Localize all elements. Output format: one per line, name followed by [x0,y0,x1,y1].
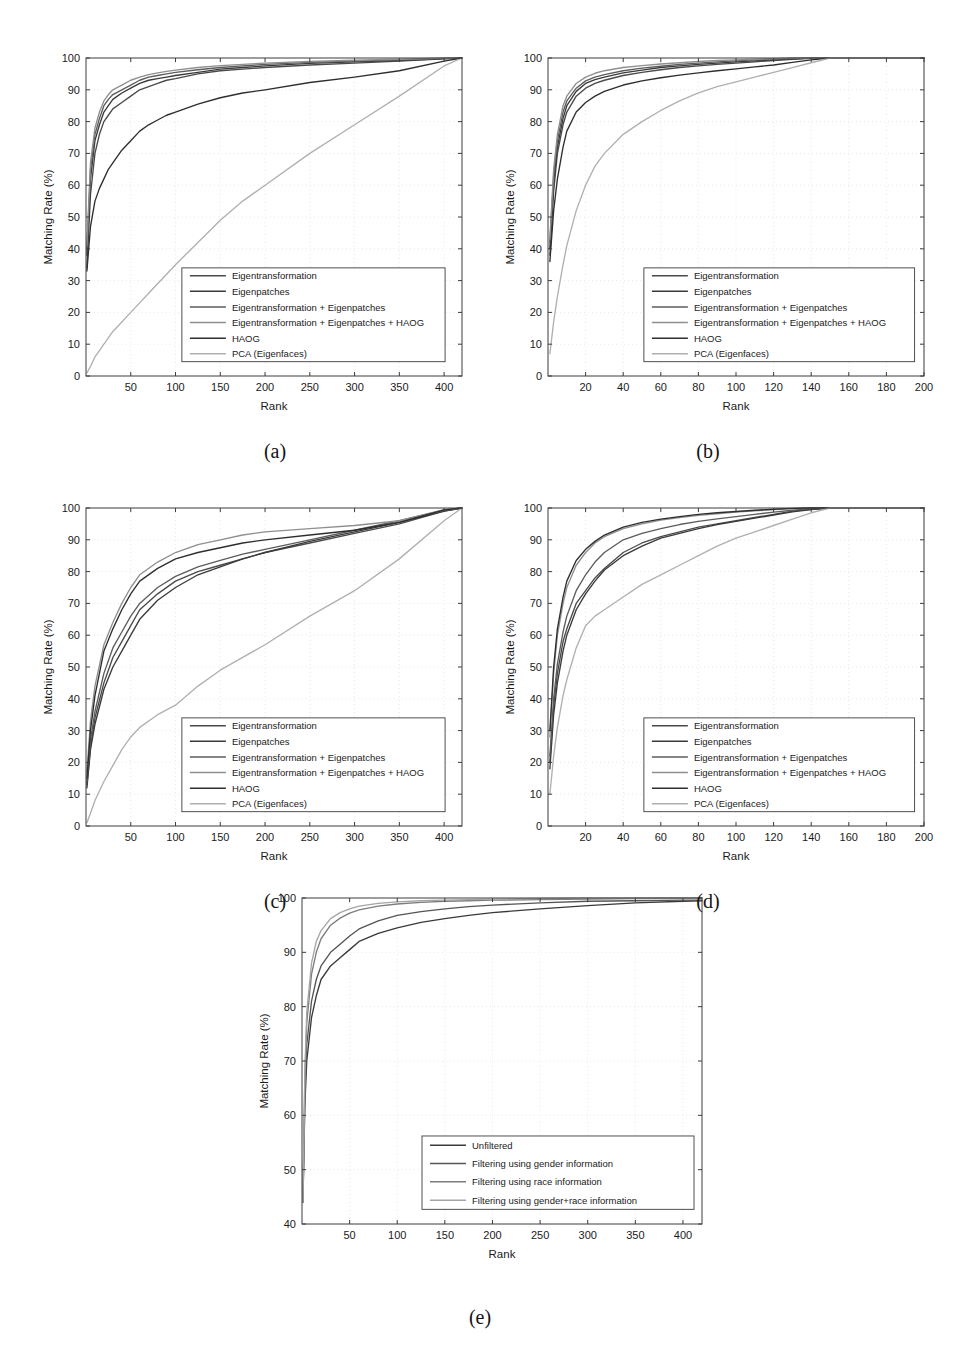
svg-text:400: 400 [435,831,453,843]
svg-text:70: 70 [284,1055,296,1067]
chart-legend: EigentransformationEigenpatchesEigentran… [182,718,445,812]
svg-text:70: 70 [68,147,80,159]
svg-text:50: 50 [284,1164,296,1176]
subfigure-caption-c: (c) [245,890,305,913]
legend-label: PCA (Eigenfaces) [232,348,307,359]
svg-text:30: 30 [530,275,542,287]
svg-text:80: 80 [68,566,80,578]
legend-label: Eigentransformation + Eigenpatches + HAO… [694,767,886,778]
y-axis-label: Matching Rate (%) [258,1013,270,1108]
svg-text:30: 30 [68,725,80,737]
legend-label: Eigenpatches [232,286,290,297]
legend-label: PCA (Eigenfaces) [694,798,769,809]
legend-label: Eigenpatches [694,736,752,747]
svg-text:200: 200 [915,831,933,843]
legend-label: Filtering using race information [472,1176,602,1187]
svg-text:50: 50 [68,211,80,223]
legend-label: Eigenpatches [232,736,290,747]
svg-text:30: 30 [68,275,80,287]
cmc-chart-b: 2040608010012014016018020001020304050607… [496,44,936,434]
svg-text:200: 200 [256,381,274,393]
svg-text:40: 40 [617,381,629,393]
svg-text:400: 400 [435,381,453,393]
svg-text:200: 200 [483,1229,501,1241]
svg-text:160: 160 [840,381,858,393]
legend-label: Eigentransformation + Eigenpatches [694,752,848,763]
svg-text:140: 140 [802,831,820,843]
svg-text:400: 400 [674,1229,692,1241]
svg-text:20: 20 [68,306,80,318]
svg-text:180: 180 [877,381,895,393]
svg-text:250: 250 [531,1229,549,1241]
cmc-chart-e: 50100150200250300350400405060708090100Ra… [246,884,716,1284]
svg-text:60: 60 [284,1109,296,1121]
svg-text:40: 40 [530,693,542,705]
svg-text:40: 40 [284,1218,296,1230]
svg-text:100: 100 [166,831,184,843]
legend-label: HAOG [232,333,260,344]
legend-label: Eigentransformation [694,270,779,281]
plot-panel-a: 5010015020025030035040001020304050607080… [34,44,474,434]
subfigure-caption-a: (a) [245,440,305,463]
svg-text:120: 120 [764,831,782,843]
y-axis-label: Matching Rate (%) [42,619,54,714]
svg-text:50: 50 [125,381,137,393]
svg-text:60: 60 [655,831,667,843]
legend-label: Eigentransformation + Eigenpatches + HAO… [232,317,424,328]
svg-text:150: 150 [436,1229,454,1241]
svg-text:120: 120 [764,381,782,393]
svg-text:20: 20 [530,306,542,318]
svg-text:100: 100 [727,381,745,393]
svg-text:70: 70 [530,147,542,159]
svg-text:10: 10 [68,788,80,800]
legend-label: Eigenpatches [694,286,752,297]
svg-text:50: 50 [68,661,80,673]
svg-text:70: 70 [530,597,542,609]
svg-text:100: 100 [727,831,745,843]
legend-label: PCA (Eigenfaces) [694,348,769,359]
svg-text:30: 30 [530,725,542,737]
legend-label: Eigentransformation [232,720,317,731]
svg-text:10: 10 [530,788,542,800]
svg-text:20: 20 [579,381,591,393]
legend-label: HAOG [232,783,260,794]
svg-text:10: 10 [68,338,80,350]
svg-text:300: 300 [345,381,363,393]
y-axis-label: Matching Rate (%) [504,619,516,714]
legend-label: HAOG [694,783,722,794]
svg-text:0: 0 [74,370,80,382]
legend-label: Eigentransformation + Eigenpatches [232,302,386,313]
svg-text:60: 60 [655,381,667,393]
svg-text:70: 70 [68,597,80,609]
svg-text:40: 40 [68,693,80,705]
svg-text:300: 300 [579,1229,597,1241]
chart-legend: EigentransformationEigenpatchesEigentran… [644,268,915,362]
legend-label: Filtering using gender information [472,1158,613,1169]
plot-panel-b: 2040608010012014016018020001020304050607… [496,44,936,434]
x-axis-label: Rank [261,400,288,412]
legend-label: Eigentransformation + Eigenpatches [694,302,848,313]
legend-label: Eigentransformation [232,270,317,281]
subfigure-caption-d: (d) [678,890,738,913]
x-axis-label: Rank [261,850,288,862]
cmc-chart-d: 2040608010012014016018020001020304050607… [496,494,936,884]
svg-text:80: 80 [68,116,80,128]
svg-text:0: 0 [536,370,542,382]
legend-label: Unfiltered [472,1140,513,1151]
cmc-chart-c: 5010015020025030035040001020304050607080… [34,494,474,884]
svg-text:100: 100 [62,52,80,64]
svg-text:20: 20 [579,831,591,843]
svg-text:90: 90 [530,84,542,96]
svg-text:80: 80 [530,566,542,578]
svg-text:100: 100 [524,52,542,64]
legend-label: Eigentransformation + Eigenpatches [232,752,386,763]
subfigure-caption-b: (b) [678,440,738,463]
svg-text:40: 40 [617,831,629,843]
svg-text:200: 200 [915,381,933,393]
chart-legend: UnfilteredFiltering using gender informa… [422,1136,694,1209]
svg-text:100: 100 [388,1229,406,1241]
svg-text:50: 50 [125,831,137,843]
svg-text:90: 90 [68,84,80,96]
svg-text:10: 10 [530,338,542,350]
legend-label: Filtering using gender+race information [472,1195,637,1206]
